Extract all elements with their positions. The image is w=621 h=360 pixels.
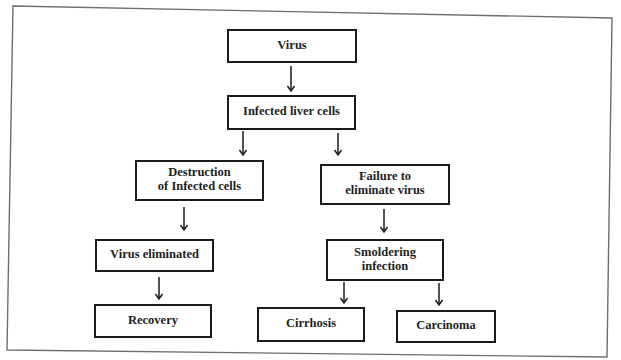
arrow-smoldering-infection-to-cirrhosis	[341, 282, 348, 303]
node-virus-eliminated: Virus eliminated	[96, 240, 213, 271]
node-label: Destruction	[168, 165, 231, 179]
node-failure-eliminate-virus: Failure toeliminate virus	[321, 165, 449, 204]
node-infected-liver-cells: Infected liver cells	[228, 96, 355, 129]
arrow-destruction-infected-cells-to-virus-eliminated	[181, 207, 188, 230]
node-carcinoma: Carcinoma	[397, 311, 495, 342]
arrow-smoldering-infection-to-carcinoma	[436, 283, 443, 305]
node-recovery: Recovery	[95, 305, 211, 337]
node-label: of Infected cells	[158, 179, 241, 193]
node-cirrhosis: Cirrhosis	[258, 308, 364, 341]
flowchart-canvas: VirusInfected liver cellsDestructionof I…	[0, 0, 621, 360]
node-smoldering-infection: Smolderinginfection	[327, 240, 443, 280]
node-destruction-infected-cells: Destructionof Infected cells	[136, 161, 263, 200]
arrow-failure-eliminate-virus-to-smoldering-infection	[381, 209, 388, 232]
node-label: Recovery	[128, 313, 179, 327]
node-virus: Virus	[228, 30, 356, 62]
arrow-infected-liver-cells-to-destruction-infected-cells	[240, 131, 247, 155]
node-label: Infected liver cells	[243, 104, 340, 118]
node-label: infection	[362, 259, 409, 273]
node-label: Cirrhosis	[286, 316, 336, 330]
arrow-virus-eliminated-to-recovery	[156, 277, 163, 299]
node-label: Carcinoma	[416, 318, 476, 332]
node-label: Failure to	[359, 169, 411, 183]
nodes-layer: VirusInfected liver cellsDestructionof I…	[95, 30, 495, 342]
arrow-infected-liver-cells-to-failure-eliminate-virus	[335, 133, 342, 155]
node-label: Virus eliminated	[110, 247, 199, 261]
node-label: Virus	[277, 38, 307, 52]
arrow-virus-to-infected-liver-cells	[288, 66, 295, 91]
node-label: Smoldering	[354, 245, 417, 259]
node-label: eliminate virus	[345, 183, 425, 197]
